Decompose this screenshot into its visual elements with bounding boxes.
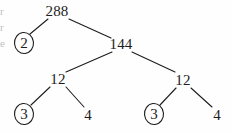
tree-edge xyxy=(30,19,48,34)
tree-edge xyxy=(31,87,50,105)
tree-node-n12-left: 12 xyxy=(50,72,65,87)
tree-node-root: 288 xyxy=(45,4,68,19)
tree-edge xyxy=(132,52,175,72)
tree-node-n2: 2 xyxy=(20,36,28,51)
edges-group xyxy=(30,19,212,107)
tree-edges-and-circles xyxy=(0,0,232,132)
factor-tree-diagram: 288214412123434 rre xyxy=(0,0,232,132)
tree-node-n4-right: 4 xyxy=(213,108,221,123)
margin-text-fragment: e xyxy=(0,38,5,49)
tree-edge xyxy=(66,52,112,72)
tree-edge xyxy=(160,88,176,105)
tree-edge xyxy=(191,88,212,107)
margin-text-fragment: r xyxy=(0,22,5,33)
tree-node-n4-left: 4 xyxy=(84,108,92,123)
margin-text-fragment: r xyxy=(0,6,5,17)
tree-node-n144: 144 xyxy=(109,37,132,52)
tree-node-n12-right: 12 xyxy=(175,73,190,88)
tree-node-n3-left: 3 xyxy=(20,107,28,122)
tree-edge xyxy=(66,87,84,107)
tree-edge xyxy=(69,19,111,38)
tree-node-n3-right: 3 xyxy=(150,107,158,122)
